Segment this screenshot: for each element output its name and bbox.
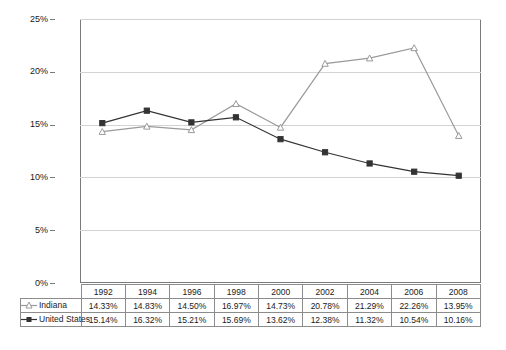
y-tick-label-5%: 5% xyxy=(35,226,48,235)
data-point-united-states-2006 xyxy=(412,169,417,174)
cell-us-2006: 10.54% xyxy=(392,313,436,327)
y-tick-label-25%: 25% xyxy=(30,15,48,24)
y-tick-mark-25% xyxy=(50,19,55,20)
data-point-united-states-2004 xyxy=(367,161,372,166)
data-point-united-states-1994 xyxy=(144,108,149,113)
column-header-2002: 2002 xyxy=(303,285,347,299)
legend-item-united-states[interactable]: United States xyxy=(21,313,82,327)
cell-indiana-1996: 14.50% xyxy=(170,299,214,313)
cell-indiana-2004: 21.29% xyxy=(347,299,391,313)
data-point-indiana-2008 xyxy=(456,132,462,138)
data-point-united-states-1992 xyxy=(100,121,105,126)
cell-indiana-1998: 16.97% xyxy=(214,299,258,313)
cell-us-2004: 11.32% xyxy=(347,313,391,327)
data-point-united-states-2008 xyxy=(456,173,461,178)
column-header-1998: 1998 xyxy=(214,285,258,299)
y-tick-mark-5% xyxy=(50,230,55,231)
y-tick-mark-15% xyxy=(50,125,55,126)
y-tick-label-20%: 20% xyxy=(30,67,48,76)
y-axis: 0%5%10%15%20%25% xyxy=(0,0,80,302)
legend-header-blank xyxy=(21,285,82,299)
column-header-2004: 2004 xyxy=(347,285,391,299)
plot-area xyxy=(80,19,481,283)
cell-us-2008: 10.16% xyxy=(436,313,481,327)
data-point-united-states-2000 xyxy=(278,137,283,142)
data-point-united-states-1998 xyxy=(233,115,238,120)
data-table: 1992 1994 1996 1998 2000 2002 2004 2006 … xyxy=(20,284,481,327)
legend-item-indiana[interactable]: Indiana xyxy=(21,299,82,313)
y-tick-mark-20% xyxy=(50,72,55,73)
y-tick-mark-10% xyxy=(50,177,55,178)
column-header-1992: 1992 xyxy=(81,285,125,299)
cell-us-1994: 16.32% xyxy=(125,313,169,327)
data-point-indiana-2006 xyxy=(411,45,417,51)
cell-us-2002: 12.38% xyxy=(303,313,347,327)
triangle-open-marker-icon xyxy=(21,300,37,311)
data-point-united-states-2002 xyxy=(322,150,327,155)
data-point-united-states-1996 xyxy=(189,120,194,125)
column-header-1994: 1994 xyxy=(125,285,169,299)
cell-indiana-1992: 14.33% xyxy=(81,299,125,313)
y-tick-label-15%: 15% xyxy=(30,120,48,129)
series-line-united-states xyxy=(102,111,458,176)
cell-indiana-2008: 13.95% xyxy=(436,299,481,313)
chart-container: 0%5%10%15%20%25% 1992 1994 1996 1998 200… xyxy=(0,0,506,350)
column-header-2000: 2000 xyxy=(259,285,303,299)
column-header-2006: 2006 xyxy=(392,285,436,299)
cell-indiana-2002: 20.78% xyxy=(303,299,347,313)
cell-indiana-2006: 22.26% xyxy=(392,299,436,313)
table-row-indiana: Indiana 14.33% 14.83% 14.50% 16.97% 14.7… xyxy=(21,299,481,313)
y-tick-label-10%: 10% xyxy=(30,173,48,182)
legend-label-indiana: Indiana xyxy=(39,301,67,310)
cell-us-1996: 15.21% xyxy=(170,313,214,327)
column-header-1996: 1996 xyxy=(170,285,214,299)
legend-label-united-states: United States xyxy=(39,315,90,324)
column-header-2008: 2008 xyxy=(436,285,481,299)
cell-us-1998: 15.69% xyxy=(214,313,258,327)
series-line-indiana xyxy=(102,48,458,136)
table-header-row: 1992 1994 1996 1998 2000 2002 2004 2006 … xyxy=(21,285,481,299)
series-layer xyxy=(80,19,481,283)
cell-indiana-1994: 14.83% xyxy=(125,299,169,313)
square-filled-marker-icon xyxy=(21,314,37,325)
cell-us-2000: 13.62% xyxy=(259,313,303,327)
data-point-indiana-1998 xyxy=(233,101,239,107)
table-row-united-states: United States 15.14% 16.32% 15.21% 15.69… xyxy=(21,313,481,327)
cell-indiana-2000: 14.73% xyxy=(259,299,303,313)
